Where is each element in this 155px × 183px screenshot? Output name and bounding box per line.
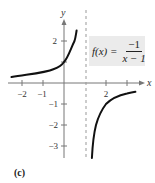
fraction-numerator: −1 bbox=[126, 39, 142, 52]
x-tick-label: −2 bbox=[17, 89, 27, 99]
y-tick-label: −1 bbox=[48, 99, 58, 109]
function-lhs: f(x) = bbox=[92, 45, 117, 57]
y-tick-label: −3 bbox=[48, 141, 58, 151]
curve-right-branch bbox=[92, 92, 135, 158]
x-tick-label: 2 bbox=[104, 89, 109, 99]
y-tick-label: 2 bbox=[53, 36, 58, 46]
figure-caption: (c) bbox=[14, 167, 25, 178]
x-axis-arrow-icon bbox=[139, 81, 145, 86]
x-axis-label: x bbox=[146, 77, 152, 88]
fraction-denominator: x − 1 bbox=[122, 52, 145, 64]
x-tick-label: −1 bbox=[37, 89, 47, 99]
y-axis-arrow-icon bbox=[62, 19, 67, 25]
function-label: f(x) = −1 x − 1 bbox=[92, 38, 146, 64]
y-axis-label: y bbox=[60, 7, 66, 18]
y-tick-label: −2 bbox=[48, 120, 58, 130]
function-graph: −2 −1 2 2 −1 −2 −3 x y bbox=[0, 0, 155, 183]
fraction: −1 x − 1 bbox=[122, 39, 145, 64]
curve-left-branch bbox=[12, 31, 77, 78]
